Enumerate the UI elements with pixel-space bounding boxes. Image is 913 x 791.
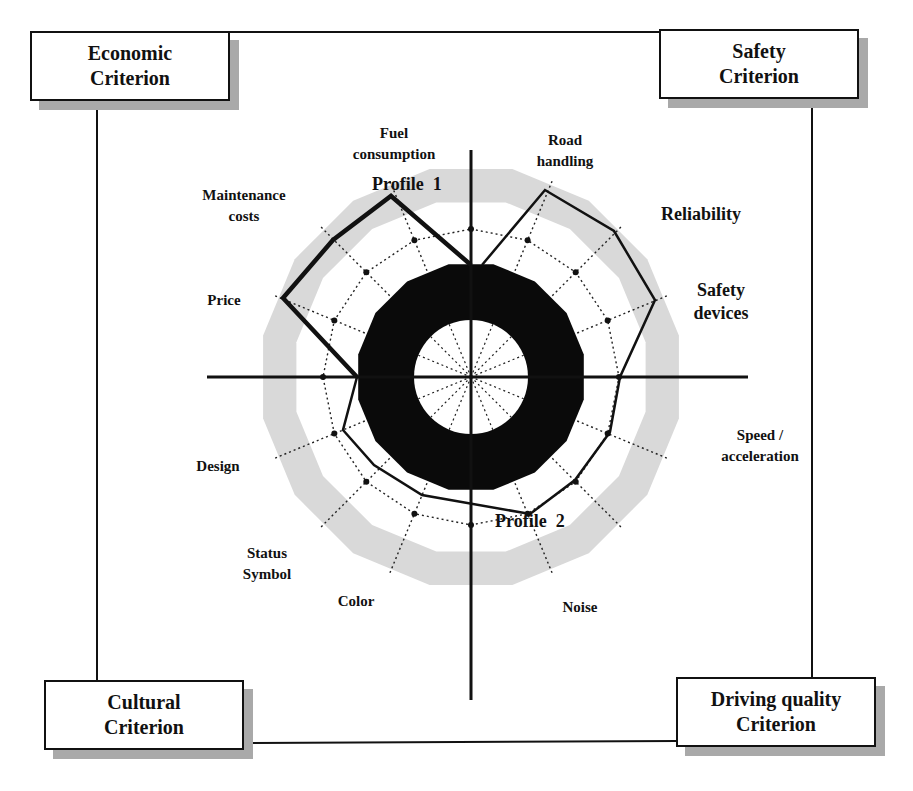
driving-quality-criterion-line1: Driving quality bbox=[711, 687, 842, 712]
label-maintenance-costs: Maintenance costs bbox=[189, 185, 299, 227]
safety-criterion-line1: Safety bbox=[719, 39, 799, 64]
label-text: Profile 2 bbox=[495, 510, 595, 533]
driving-quality-criterion-box: Driving quality Criterion bbox=[676, 677, 876, 747]
label-fuel-consumption: Fuel consumption bbox=[344, 123, 444, 165]
label-safety-devices: Safety devices bbox=[675, 279, 767, 325]
label-text: Reliability bbox=[645, 203, 757, 226]
label-text: Noise bbox=[540, 597, 620, 618]
label-text: Speed / bbox=[705, 425, 815, 446]
label-text: acceleration bbox=[705, 446, 815, 467]
cultural-criterion-box: Cultural Criterion bbox=[44, 680, 244, 750]
label-color: Color bbox=[318, 591, 394, 612]
diagram-stage: Economic Criterion Safety Criterion Cult… bbox=[0, 0, 913, 791]
label-text: Symbol bbox=[222, 564, 312, 585]
label-text: Color bbox=[318, 591, 394, 612]
label-text: Road bbox=[515, 130, 615, 151]
cultural-criterion-line1: Cultural bbox=[104, 690, 184, 715]
label-text: Fuel bbox=[344, 123, 444, 144]
label-text: Status bbox=[222, 543, 312, 564]
label-text: devices bbox=[675, 302, 767, 325]
economic-criterion-line2: Criterion bbox=[88, 66, 172, 91]
label-reliability: Reliability bbox=[645, 203, 757, 226]
label-text: Profile 1 bbox=[372, 173, 472, 196]
driving-quality-criterion-line2: Criterion bbox=[711, 712, 842, 737]
label-text: handling bbox=[515, 151, 615, 172]
label-road-handling: Road handling bbox=[515, 130, 615, 172]
economic-criterion-box: Economic Criterion bbox=[30, 31, 230, 101]
label-status-symbol: Status Symbol bbox=[222, 543, 312, 585]
label-profile-1: Profile 1 bbox=[372, 173, 472, 196]
label-text: consumption bbox=[344, 144, 444, 165]
label-text: costs bbox=[189, 206, 299, 227]
label-text: Design bbox=[180, 456, 256, 477]
label-text: Maintenance bbox=[189, 185, 299, 206]
label-price: Price bbox=[186, 290, 262, 311]
label-noise: Noise bbox=[540, 597, 620, 618]
economic-criterion-line1: Economic bbox=[88, 41, 172, 66]
label-profile-2: Profile 2 bbox=[495, 510, 595, 533]
label-design: Design bbox=[180, 456, 256, 477]
cultural-criterion-line2: Criterion bbox=[104, 715, 184, 740]
label-speed-acceleration: Speed / acceleration bbox=[705, 425, 815, 467]
safety-criterion-box: Safety Criterion bbox=[659, 29, 859, 99]
safety-criterion-line2: Criterion bbox=[719, 64, 799, 89]
label-text: Price bbox=[186, 290, 262, 311]
radar-chart bbox=[0, 0, 913, 791]
label-text: Safety bbox=[675, 279, 767, 302]
